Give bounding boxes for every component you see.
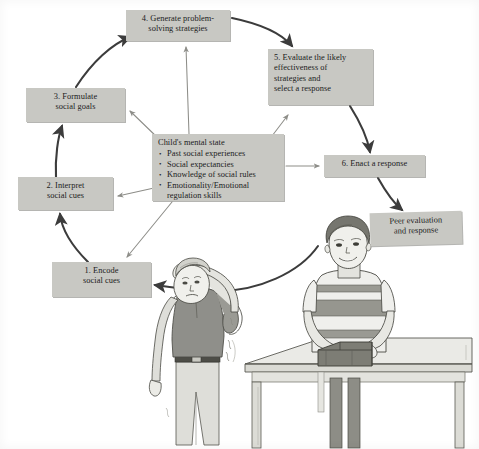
childs-mental-state-box[interactable]: Child's mental state Past social experie… (152, 134, 284, 201)
peer-evaluation-box[interactable]: Peer evaluation and response (370, 211, 463, 247)
mental-state-bullet-4: Emotionality/Emotional regulation skills (158, 181, 278, 202)
table-leg-front-left (252, 382, 261, 448)
step-4-box[interactable]: 4. Generate problem- solving strategies (126, 10, 230, 41)
social-information-processing-figure: 4. Generate problem- solving strategies … (0, 0, 479, 449)
mental-state-bullet-2: Social expectancies (158, 160, 278, 170)
step-4-line-2: solving strategies (132, 24, 224, 34)
step-2-box[interactable]: 2. Interpret social cues (18, 177, 113, 210)
table-leg-front-right (455, 382, 464, 448)
left-boy-eye-left (182, 282, 187, 285)
step-1-box[interactable]: 1. Encode social cues (52, 262, 151, 297)
step-6-box[interactable]: 6. Enact a response (324, 155, 425, 177)
step-3-box[interactable]: 3. Formulate social goals (26, 88, 125, 122)
peer-boy-leg-left (330, 378, 342, 448)
step-5-line-1: 5. Evaluate the likely (274, 53, 367, 63)
peer-line-2: and response (376, 225, 456, 238)
peer-boy-eye-left (336, 243, 342, 247)
step-1-line-1: 1. Encode (58, 266, 145, 276)
step-6-line-1: 6. Enact a response (330, 159, 419, 169)
mental-state-bullet-list: Past social experiences Social expectanc… (158, 149, 278, 201)
step-2-line-1: 2. Interpret (24, 181, 107, 191)
peer-boy (303, 216, 395, 448)
mental-state-heading: Child's mental state (158, 138, 278, 148)
step-3-line-1: 3. Formulate (32, 92, 119, 102)
step-1-line-2: social cues (58, 276, 145, 286)
step-5-line-4: select a response (274, 84, 367, 94)
upset-boy (149, 258, 242, 445)
step-5-line-2: effectiveness of (274, 63, 367, 73)
table-leg-back-left (318, 372, 324, 412)
mental-state-bullet-1: Past social experiences (158, 149, 278, 159)
left-boy-eye-right (194, 281, 199, 284)
peer-boy-leg-right (348, 378, 360, 448)
step-5-box[interactable]: 5. Evaluate the likely effectiveness of … (268, 49, 373, 105)
peer-boy-wide-stripe (312, 300, 386, 316)
step-3-line-2: social goals (32, 102, 119, 112)
step-4-line-1: 4. Generate problem- (132, 14, 224, 24)
step-5-line-3: strategies and (274, 74, 367, 84)
peer-boy-eye-right (353, 242, 359, 246)
mental-state-bullet-3: Knowledge of social rules (158, 170, 278, 180)
step-2-line-2: social cues (24, 191, 107, 201)
